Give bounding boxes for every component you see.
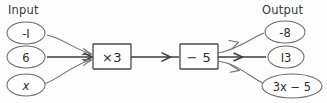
connector-input-1 <box>47 35 92 55</box>
connector-between-operations <box>131 53 179 61</box>
input-node-2-label: 6 <box>22 51 29 65</box>
output-node-1-label: -8 <box>279 26 290 40</box>
diagram-canvas: Input Output ×3 − 5 <box>0 0 327 103</box>
input-node-1-label: -I <box>22 27 30 41</box>
input-node-2[interactable]: 6 <box>7 46 45 68</box>
connector-output-2 <box>218 53 266 61</box>
output-node-1[interactable]: -8 <box>265 21 305 43</box>
connector-output-1 <box>218 33 264 53</box>
connector-input-3 <box>44 60 92 84</box>
output-header-label: Output <box>262 3 303 17</box>
input-header-label: Input <box>8 3 39 17</box>
output-node-3[interactable]: 3x − 5 <box>262 74 322 98</box>
connector-output-3 <box>218 61 266 85</box>
operation-label-multiply: ×3 <box>102 50 122 65</box>
operation-label-subtract: − 5 <box>187 50 212 65</box>
input-node-3[interactable]: x <box>7 74 45 96</box>
input-node-3-label: x <box>22 79 30 93</box>
output-node-2[interactable]: I3 <box>268 46 304 68</box>
function-machine-diagram: Input Output ×3 − 5 <box>0 0 327 103</box>
output-node-3-label: 3x − 5 <box>273 80 311 94</box>
output-node-2-label: I3 <box>281 51 292 65</box>
input-node-1[interactable]: -I <box>7 22 45 44</box>
